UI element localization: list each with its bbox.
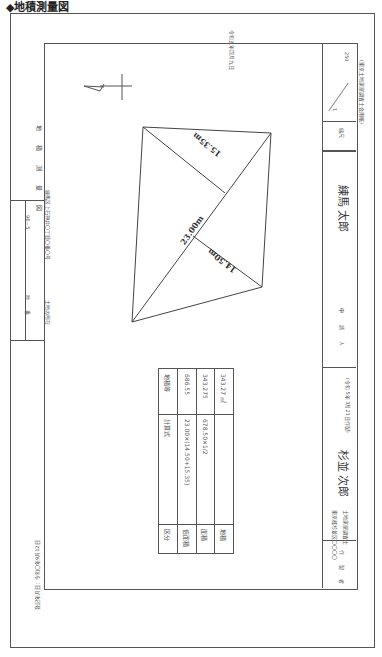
table-cell: 倍面積 xyxy=(182,529,191,547)
table-cell: 343.27 ㎡ xyxy=(219,374,228,403)
table-cell: 678.50×1/2 xyxy=(202,419,209,455)
table-cell: 面積 xyxy=(200,529,209,541)
area-table: 地積等 計算式 区分 686.55 23.00×(14.50+15.35) 倍面… xyxy=(158,368,234,554)
table-cell: 343.275 xyxy=(202,374,209,399)
table-header-category: 区分 xyxy=(163,529,172,541)
table-cell: 地積 xyxy=(219,529,228,541)
north-arrow-icon xyxy=(84,74,132,100)
table-cell: 686.55 xyxy=(184,374,191,395)
table-cell: 23.00×(14.50+15.35) xyxy=(184,419,191,485)
parcel-drawing xyxy=(0,0,382,657)
table-header-formula: 計算式 xyxy=(163,419,172,437)
table-header-area: 地積等 xyxy=(163,374,172,392)
